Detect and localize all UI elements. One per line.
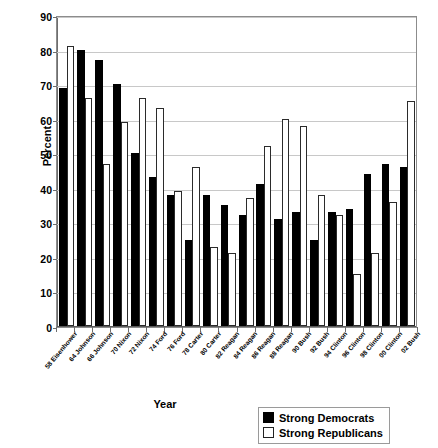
- bar-strong-republicans: [318, 195, 326, 326]
- bar-strong-republicans: [228, 253, 236, 326]
- bar-strong-republicans: [67, 46, 75, 326]
- y-axis-tickmark: [53, 293, 57, 294]
- bar-strong-republicans: [121, 122, 129, 326]
- bar-strong-republicans: [389, 202, 397, 326]
- bar-group: [94, 17, 112, 326]
- bar-strong-democrats: [274, 219, 282, 326]
- y-axis-tickmark: [53, 190, 57, 191]
- bar-group: [76, 17, 94, 326]
- bar-strong-republicans: [246, 198, 254, 326]
- y-axis-tick-label: 0: [46, 322, 52, 334]
- legend-label-republicans: Strong Republicans: [279, 427, 383, 439]
- bar-group: [148, 17, 166, 326]
- y-axis-tickmark: [53, 17, 57, 18]
- legend-swatch-hollow-square-icon: [263, 427, 274, 438]
- bar-strong-republicans: [300, 126, 308, 326]
- bar-group: [58, 17, 76, 326]
- bar-strong-republicans: [353, 274, 361, 326]
- bar-strong-republicans: [264, 146, 272, 326]
- y-axis-tick-label: 20: [40, 253, 52, 265]
- bar-strong-republicans: [174, 191, 182, 326]
- bar-group: [398, 17, 416, 326]
- y-axis-tickmark: [53, 259, 57, 260]
- y-axis-tick-label: 30: [40, 218, 52, 230]
- y-axis-tickmark: [53, 86, 57, 87]
- bar-group: [362, 17, 380, 326]
- bar-strong-republicans: [407, 101, 415, 326]
- bar-group: [255, 17, 273, 326]
- bar-strong-republicans: [210, 247, 218, 326]
- bar-group: [345, 17, 363, 326]
- bar-strong-democrats: [400, 167, 408, 326]
- bar-strong-democrats: [221, 205, 229, 326]
- y-axis-tick-label: 50: [40, 149, 52, 161]
- y-axis-tick-label: 80: [40, 46, 52, 58]
- bar-strong-democrats: [113, 84, 121, 326]
- bar-group: [165, 17, 183, 326]
- bar-strong-democrats: [256, 184, 264, 326]
- bar-strong-democrats: [167, 195, 175, 326]
- bar-strong-republicans: [282, 119, 290, 326]
- bar-group: [327, 17, 345, 326]
- y-axis-tick-label: 60: [40, 115, 52, 127]
- y-axis-tick-label: 90: [40, 11, 52, 23]
- bar-group: [237, 17, 255, 326]
- bar-strong-republicans: [156, 108, 164, 326]
- bar-strong-democrats: [59, 88, 67, 326]
- bar-strong-democrats: [239, 215, 247, 326]
- bar-group: [183, 17, 201, 326]
- bar-strong-republicans: [103, 164, 111, 326]
- legend-swatch-filled-square-icon: [263, 412, 274, 423]
- bar-group: [112, 17, 130, 326]
- bar-strong-democrats: [346, 209, 354, 326]
- bar-group: [273, 17, 291, 326]
- bar-strong-democrats: [131, 153, 139, 326]
- legend: Strong Democrats Strong Republicans: [258, 407, 390, 444]
- bar-group: [130, 17, 148, 326]
- bar-group: [291, 17, 309, 326]
- x-axis-labels: 58 Eisenhower64 Johnson66 Johnson70 Nixo…: [56, 330, 417, 396]
- bar-strong-democrats: [382, 164, 390, 326]
- bar-strong-democrats: [149, 177, 157, 326]
- bar-strong-democrats: [95, 60, 103, 326]
- bar-strong-republicans: [192, 167, 200, 326]
- plot-area: 0102030405060708090: [56, 16, 417, 328]
- bar-strong-republicans: [336, 215, 344, 326]
- bar-group: [219, 17, 237, 326]
- bar-strong-democrats: [77, 50, 85, 326]
- bar-strong-democrats: [203, 195, 211, 326]
- bar-strong-republicans: [139, 98, 147, 326]
- bar-strong-republicans: [371, 253, 379, 326]
- y-axis-tick-label: 70: [40, 80, 52, 92]
- legend-item-democrats: Strong Democrats: [263, 410, 383, 425]
- y-axis-tickmark: [53, 121, 57, 122]
- bar-strong-democrats: [310, 240, 318, 326]
- bar-strong-democrats: [328, 212, 336, 326]
- y-axis-tickmark: [53, 155, 57, 156]
- x-axis-label: 74 Ford: [148, 330, 169, 353]
- y-axis-tick-label: 40: [40, 184, 52, 196]
- bar-strong-democrats: [185, 240, 193, 326]
- bar-series-container: [58, 17, 416, 326]
- y-axis-tickmark: [53, 52, 57, 53]
- bar-chart: Percent 0102030405060708090 58 Eisenhowe…: [0, 0, 438, 448]
- bar-strong-democrats: [364, 174, 372, 326]
- legend-item-republicans: Strong Republicans: [263, 425, 383, 440]
- y-axis-tickmark: [53, 224, 57, 225]
- bar-group: [309, 17, 327, 326]
- bar-strong-republicans: [85, 98, 93, 326]
- bar-group: [380, 17, 398, 326]
- bar-strong-democrats: [292, 212, 300, 326]
- bar-group: [201, 17, 219, 326]
- legend-label-democrats: Strong Democrats: [279, 412, 374, 424]
- y-axis-tick-label: 10: [40, 287, 52, 299]
